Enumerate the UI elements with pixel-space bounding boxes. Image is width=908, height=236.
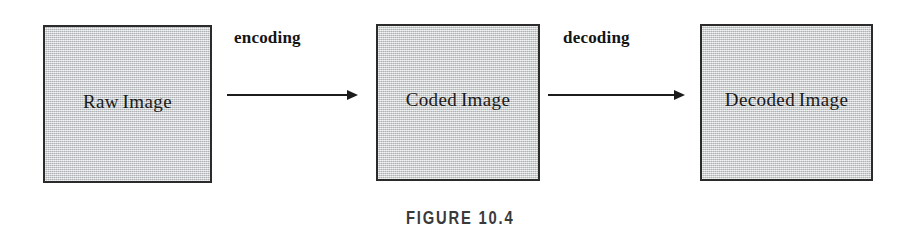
arrow-decoding-head-icon [674,90,685,100]
node-raw-image: Raw Image [43,25,212,183]
arrow-decoding-shaft [548,94,676,96]
node-raw-image-label: Raw Image [83,92,172,111]
arrow-encoding-shaft [227,94,349,96]
node-decoded-image: Decoded Image [700,24,873,181]
node-coded-image-label: Coded Image [406,90,511,109]
figure-canvas: Raw Image encoding Coded Image decoding … [0,0,908,236]
arrow-encoding-label: encoding [234,29,301,46]
node-decoded-image-label: Decoded Image [725,90,848,109]
arrow-decoding [548,89,685,101]
arrow-encoding [227,89,358,101]
figure-caption: FIGURE 10.4 [406,209,514,227]
arrow-decoding-label: decoding [563,29,630,46]
arrow-encoding-head-icon [347,90,358,100]
node-coded-image: Coded Image [376,24,540,181]
